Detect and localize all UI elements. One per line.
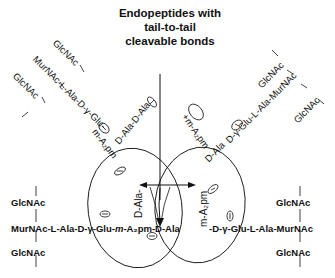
arrow-head-left	[139, 182, 147, 188]
arrow-head-right	[188, 182, 196, 188]
lower-left-chain-prefix: MurNAc-L-Ala-D-γ-Glu-	[11, 223, 115, 234]
lower-right-chain: -D-γ-Glu-L-Ala-MurNAc	[209, 224, 313, 234]
lower-left-glcnac-bottom: GlcNAc	[11, 248, 45, 258]
lower-left-cross-link-d-ala: D-Ala-	[134, 190, 144, 218]
peptidoglycan-diagram: Endopeptides with tail-to-tail cleavable…	[0, 0, 335, 278]
lower-right-vertical-dap: m-A₂pm	[199, 191, 209, 227]
lower-left-chain: MurNAc-L-Ala-D-γ-Glu-m-A₂pm-D-Ala	[11, 224, 180, 234]
diagram-lines	[0, 0, 335, 278]
lower-right-glcnac-top: GlcNAc	[276, 198, 310, 208]
lower-left-glcnac-top: GlcNAc	[11, 198, 45, 208]
lower-right-glcnac-bottom: GlcNAc	[276, 248, 310, 258]
lower-left-chain-suffix: -A₂pm-D-Ala	[123, 223, 179, 234]
